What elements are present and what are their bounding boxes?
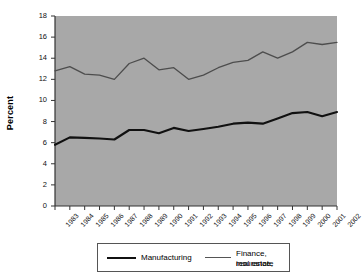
y-tick-label: 14 <box>27 54 47 62</box>
chart-legend: Manufacturing Finance, insurance, real e… <box>97 243 290 272</box>
y-tick-label: 0 <box>27 202 47 210</box>
plot-background <box>55 16 337 206</box>
legend-swatch-manufacturing <box>107 257 136 259</box>
y-axis-label-text: Percent <box>5 73 15 153</box>
y-tick-label: 12 <box>27 75 47 83</box>
y-tick-label: 8 <box>27 118 47 126</box>
y-tick-label: 18 <box>27 12 47 20</box>
legend-label-manufacturing: Manufacturing <box>141 253 192 263</box>
y-tick-label: 10 <box>27 96 47 104</box>
legend-label-finance-line2: real estate <box>236 259 273 269</box>
y-axis-label: Percent <box>2 78 18 158</box>
y-tick-label: 2 <box>27 181 47 189</box>
legend-swatch-finance <box>205 257 231 258</box>
y-tick-label: 6 <box>27 139 47 147</box>
y-tick-label: 16 <box>27 33 47 41</box>
y-tick-label: 4 <box>27 160 47 168</box>
